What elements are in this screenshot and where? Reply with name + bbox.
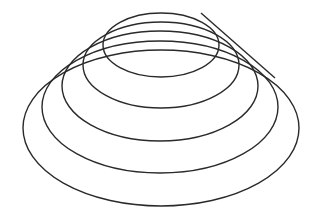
conical-spiral-drawing <box>0 0 315 221</box>
spiral-tail-line <box>201 13 275 78</box>
spiral-turn-4 <box>42 41 278 173</box>
spiral-turns <box>23 13 299 206</box>
spiral-turn-2 <box>83 22 239 108</box>
diagram-canvas <box>0 0 315 221</box>
